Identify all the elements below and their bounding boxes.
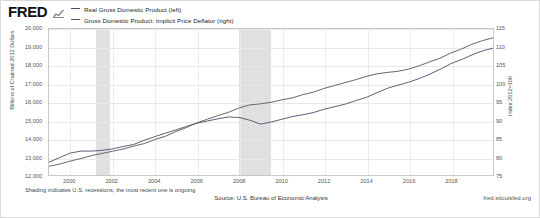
fred-url[interactable]: fred.stlouisfed.org <box>483 195 531 201</box>
y-tick-right: 75 <box>496 173 520 179</box>
recession-note: Shading indicates U.S. recessions, the m… <box>25 187 205 195</box>
series-lines <box>49 29 493 175</box>
x-tick: 2006 <box>185 178 209 184</box>
y-tick-left: 18,000 <box>1 62 45 68</box>
y-tick-left: 17,000 <box>1 81 45 87</box>
x-tick: 2012 <box>312 178 336 184</box>
source-note: Source: U.S. Bureau of Economic Analysis <box>1 195 540 201</box>
y-tick-left: 20,000 <box>1 25 45 31</box>
chart-legend: Real Gross Domestic Product (left) Gross… <box>71 4 234 26</box>
x-tick: 2016 <box>397 178 421 184</box>
y-tick-right: 95 <box>496 99 520 105</box>
legend-label-gdp: Real Gross Domestic Product (left) <box>84 5 181 14</box>
legend-item-gdp[interactable]: Real Gross Domestic Product (left) <box>71 4 234 13</box>
legend-swatch-gdp <box>71 8 80 9</box>
x-tick: 2010 <box>270 178 294 184</box>
y-tick-right: 90 <box>496 118 520 124</box>
x-tick: 2000 <box>57 178 81 184</box>
y-tick-left: 13,000 <box>1 155 45 161</box>
y-tick-left: 15,000 <box>1 118 45 124</box>
series-line <box>49 48 493 162</box>
legend-item-deflator[interactable]: Gross Domestic Product: Implicit Price D… <box>71 15 234 24</box>
y-axis-right-label: Index 2012=100 <box>507 67 513 125</box>
fred-logo[interactable]: FRED <box>8 4 47 19</box>
y-tick-right: 100 <box>496 81 520 87</box>
x-tick: 2002 <box>100 178 124 184</box>
legend-label-deflator: Gross Domestic Product: Implicit Price D… <box>84 16 234 25</box>
chart-glyph-icon <box>53 9 64 18</box>
series-line <box>49 38 493 166</box>
y-tick-left: 12,000 <box>1 173 45 179</box>
y-tick-left: 19,000 <box>1 44 45 50</box>
y-tick-left: 14,000 <box>1 136 45 142</box>
x-tick: 2014 <box>355 178 379 184</box>
y-tick-right: 80 <box>496 155 520 161</box>
x-tick: 2018 <box>440 178 464 184</box>
y-tick-right: 110 <box>496 44 520 50</box>
legend-swatch-deflator <box>71 19 80 20</box>
y-tick-left: 16,000 <box>1 99 45 105</box>
y-tick-right: 85 <box>496 136 520 142</box>
x-tick: 2004 <box>142 178 166 184</box>
x-tick: 2008 <box>227 178 251 184</box>
chart-header: FRED Real Gross Domestic Product (left) … <box>1 1 540 27</box>
y-tick-right: 105 <box>496 62 520 68</box>
y-tick-right: 115 <box>496 25 520 31</box>
plot-area <box>48 28 494 176</box>
fred-chart-widget: FRED Real Gross Domestic Product (left) … <box>0 0 540 218</box>
